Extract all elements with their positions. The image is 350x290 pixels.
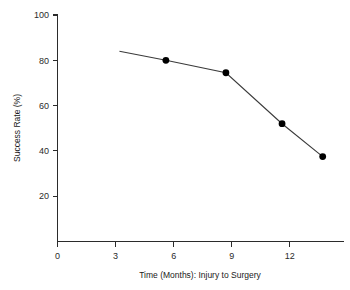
x-axis-title: Time (Months): Injury to Surgery: [139, 270, 261, 280]
x-tick-label: 3: [113, 251, 118, 261]
y-tick-label: 60: [39, 101, 49, 111]
x-tick-label: 9: [229, 251, 234, 261]
y-axis: 20406080100 Success Rate (%): [12, 10, 58, 241]
x-tick-group: 036912: [55, 242, 295, 262]
data-point-marker: [279, 120, 286, 127]
data-point-marker: [319, 153, 326, 160]
x-tick-label: 0: [55, 251, 60, 261]
y-tick-label: 40: [39, 146, 49, 156]
line-chart: 20406080100 Success Rate (%) 036912 Time…: [0, 0, 350, 290]
x-tick-label: 6: [171, 251, 176, 261]
y-tick-label: 20: [39, 191, 49, 201]
x-axis: 036912 Time (Months): Injury to Surgery: [55, 242, 344, 281]
y-axis-title: Success Rate (%): [12, 94, 22, 162]
x-tick-label: 12: [285, 251, 295, 261]
chart-canvas: 20406080100 Success Rate (%) 036912 Time…: [0, 0, 350, 290]
y-tick-label: 80: [39, 56, 49, 66]
data-point-marker: [223, 69, 230, 76]
series-line: [119, 51, 322, 156]
y-tick-label: 100: [34, 10, 49, 20]
y-tick-group: 20406080100: [34, 10, 58, 201]
data-series-group: [119, 51, 326, 160]
data-point-marker: [163, 57, 170, 64]
